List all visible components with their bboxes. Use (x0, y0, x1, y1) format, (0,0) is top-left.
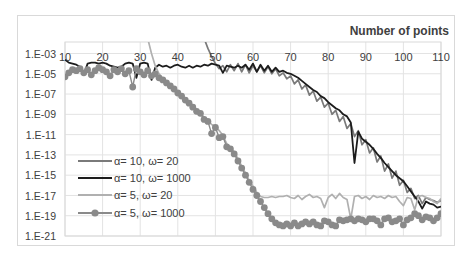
y-tick-label: 1.E-09 (25, 108, 56, 120)
data-point-marker (125, 67, 132, 74)
series-line (148, 38, 441, 219)
data-point-marker (261, 204, 268, 211)
legend-label: α= 5, ω= 1000 (114, 207, 185, 219)
x-tick-label: 80 (313, 51, 343, 63)
data-point-marker (208, 130, 215, 137)
legend-item-a10-w20[interactable]: α= 10, ω= 20 (78, 154, 179, 168)
data-point-marker (107, 72, 114, 79)
x-tick-label: 50 (200, 51, 230, 63)
x-tick-label: 110 (426, 51, 456, 63)
y-tick-label: 1.E-15 (25, 169, 56, 181)
y-tick-label: 1.E-17 (25, 190, 56, 202)
data-point-marker (257, 198, 264, 205)
x-tick-label: 30 (125, 51, 155, 63)
legend-line-icon (78, 188, 112, 202)
y-tick-label: 1.E-19 (25, 210, 56, 222)
data-point-marker (231, 151, 238, 158)
data-point-marker (212, 124, 219, 131)
data-point-marker (377, 222, 384, 229)
x-tick-label: 70 (276, 51, 306, 63)
data-point-marker (238, 165, 245, 172)
y-tick-label: 1.E-05 (25, 68, 56, 80)
series-line (204, 38, 441, 203)
x-tick-label: 20 (88, 51, 118, 63)
data-point-marker (253, 192, 260, 199)
x-tick-label: 90 (351, 51, 381, 63)
data-point-marker (396, 215, 403, 222)
data-point-marker (438, 210, 445, 217)
data-point-marker (129, 84, 136, 91)
data-point-marker (332, 223, 339, 230)
x-tick-label: 60 (238, 51, 268, 63)
legend-line-icon (78, 154, 112, 168)
data-point-marker (197, 110, 204, 117)
legend-label: α= 10, ω= 20 (114, 155, 179, 167)
x-tick-label: 100 (388, 51, 418, 63)
series-2 (148, 38, 441, 219)
y-tick-label: 1.E-21 (25, 230, 56, 242)
legend-label: α= 10, ω= 1000 (114, 172, 191, 184)
legend-item-a5-w20[interactable]: α= 5, ω= 20 (78, 188, 172, 202)
y-tick-label: 1.E-13 (25, 149, 56, 161)
chart-title: Number of points (350, 24, 449, 38)
x-tick-label: 10 (50, 51, 80, 63)
legend-label: α= 5, ω= 20 (114, 189, 172, 201)
data-point-marker (242, 172, 249, 179)
legend-item-a5-w1000[interactable]: α= 5, ω= 1000 (78, 206, 185, 220)
series-0 (204, 38, 441, 203)
y-tick-label: 1.E-07 (25, 88, 56, 100)
legend-item-a10-w1000[interactable]: α= 10, ω= 1000 (78, 171, 191, 185)
data-point-marker (220, 133, 227, 140)
plot-area (0, 0, 471, 259)
y-tick-label: 1.E-11 (26, 129, 56, 141)
data-point-marker (246, 179, 253, 186)
legend-marker-line-icon (78, 206, 112, 220)
data-point-marker (250, 186, 257, 193)
x-tick-label: 40 (163, 51, 193, 63)
legend-line-icon (78, 171, 112, 185)
data-point-marker (205, 118, 212, 125)
data-point-marker (235, 158, 242, 165)
